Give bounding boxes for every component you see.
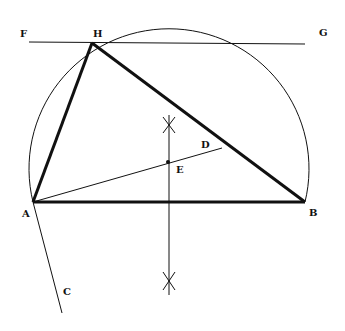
label-b: B — [309, 207, 317, 218]
side-hb — [92, 43, 305, 202]
label-d: D — [201, 139, 210, 150]
label-h: H — [93, 28, 102, 39]
label-f: F — [20, 28, 27, 39]
tangent-line-fg — [29, 42, 305, 44]
side-ah — [33, 43, 92, 202]
label-c: C — [63, 286, 71, 297]
label-a: A — [21, 208, 30, 219]
label-g: G — [319, 27, 328, 38]
line-ad — [33, 148, 222, 202]
point-e — [166, 160, 170, 164]
line-ac — [33, 202, 62, 313]
geometry-diagram: F H G D E A B C — [0, 0, 345, 331]
label-e: E — [176, 164, 184, 175]
